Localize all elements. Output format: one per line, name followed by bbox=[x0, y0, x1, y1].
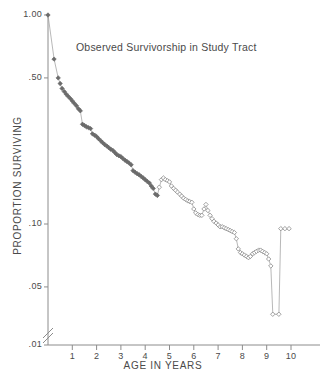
survivorship-figure: Observed Survivorship in Study Tract PRO… bbox=[0, 0, 326, 382]
data-point-marker bbox=[157, 185, 161, 189]
series-data-markers bbox=[46, 13, 291, 317]
data-point-marker bbox=[266, 257, 270, 261]
y-tick-label: .50 bbox=[0, 72, 42, 82]
x-axis-label: AGE IN YEARS bbox=[0, 360, 326, 371]
y-axis-ticks bbox=[44, 15, 48, 345]
data-point-marker bbox=[192, 207, 196, 211]
x-tick-label: 2 bbox=[85, 351, 109, 361]
y-tick-label: .05 bbox=[0, 281, 42, 291]
x-tick-label: 4 bbox=[133, 351, 157, 361]
plot-canvas bbox=[0, 0, 326, 382]
data-point-marker bbox=[58, 81, 62, 85]
data-point-marker bbox=[204, 202, 208, 206]
x-axis-ticks bbox=[72, 345, 291, 350]
data-point-marker bbox=[234, 237, 238, 241]
data-point-marker bbox=[56, 76, 60, 80]
data-point-marker bbox=[236, 247, 240, 251]
data-point-marker bbox=[52, 57, 56, 61]
series-connector-lines bbox=[48, 15, 289, 314]
data-point-marker bbox=[277, 312, 281, 316]
x-tick-label: 3 bbox=[109, 351, 133, 361]
data-point-marker bbox=[271, 312, 275, 316]
x-tick-label: 5 bbox=[158, 351, 182, 361]
chart-title: Observed Survivorship in Study Tract bbox=[76, 41, 257, 53]
x-tick-label: 6 bbox=[182, 351, 206, 361]
data-point-marker bbox=[287, 226, 291, 230]
x-tick-label: 10 bbox=[279, 351, 303, 361]
x-tick-label: 1 bbox=[60, 351, 84, 361]
data-point-marker bbox=[46, 13, 50, 17]
y-axis-label: PROPORTION SURVIVING bbox=[12, 106, 23, 266]
y-tick-label: 1.00 bbox=[0, 9, 42, 19]
data-point-marker bbox=[269, 264, 273, 268]
x-tick-label: 8 bbox=[230, 351, 254, 361]
x-tick-label: 7 bbox=[206, 351, 230, 361]
y-tick-label: .01 bbox=[0, 339, 42, 349]
y-tick-label: .10 bbox=[0, 218, 42, 228]
x-tick-label: 9 bbox=[255, 351, 279, 361]
